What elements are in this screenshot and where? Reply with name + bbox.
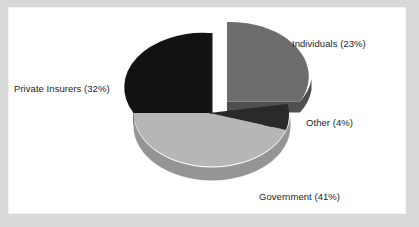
slice-top-individuals bbox=[227, 22, 309, 102]
pie-label-private-insurers: Private Insurers (32%) bbox=[14, 83, 110, 95]
pie-chart bbox=[0, 0, 419, 227]
slice-top-private-insurers bbox=[124, 33, 209, 113]
pie-label-other: Other (4%) bbox=[306, 117, 353, 129]
pie-label-individuals: Individuals (23%) bbox=[292, 38, 366, 50]
chart-figure: Individuals (23%) Private Insurers (32%)… bbox=[0, 0, 419, 227]
pie-label-government: Government (41%) bbox=[259, 191, 340, 203]
